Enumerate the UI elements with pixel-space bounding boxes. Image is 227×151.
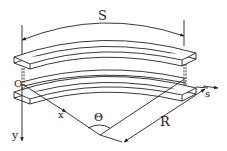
label-y-axis: y: [12, 130, 18, 141]
diagram-drawing: [0, 0, 227, 151]
label-s-axis: s: [205, 89, 210, 99]
top-flange: [14, 40, 196, 69]
bottom-flange: [14, 76, 196, 104]
label-arc-length: S: [98, 9, 107, 22]
label-angle: Θ: [94, 112, 103, 123]
label-origin: O: [14, 79, 22, 89]
curved-beam-diagram: S O x y s Θ R: [0, 0, 227, 151]
label-radius: R: [160, 115, 170, 128]
label-x-axis: x: [58, 110, 64, 120]
